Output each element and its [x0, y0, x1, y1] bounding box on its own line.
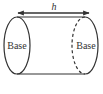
cylinder-diagram: h Base Base — [0, 0, 103, 94]
height-label: h — [52, 1, 57, 12]
right-base-label: Base — [76, 40, 96, 51]
left-base-label: Base — [7, 40, 27, 51]
